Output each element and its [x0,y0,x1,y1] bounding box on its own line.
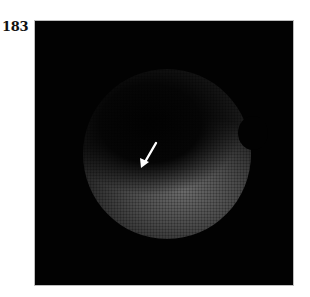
panel-label: 183 [2,19,28,34]
arrow-icon [35,21,293,285]
image-panel [35,21,293,285]
